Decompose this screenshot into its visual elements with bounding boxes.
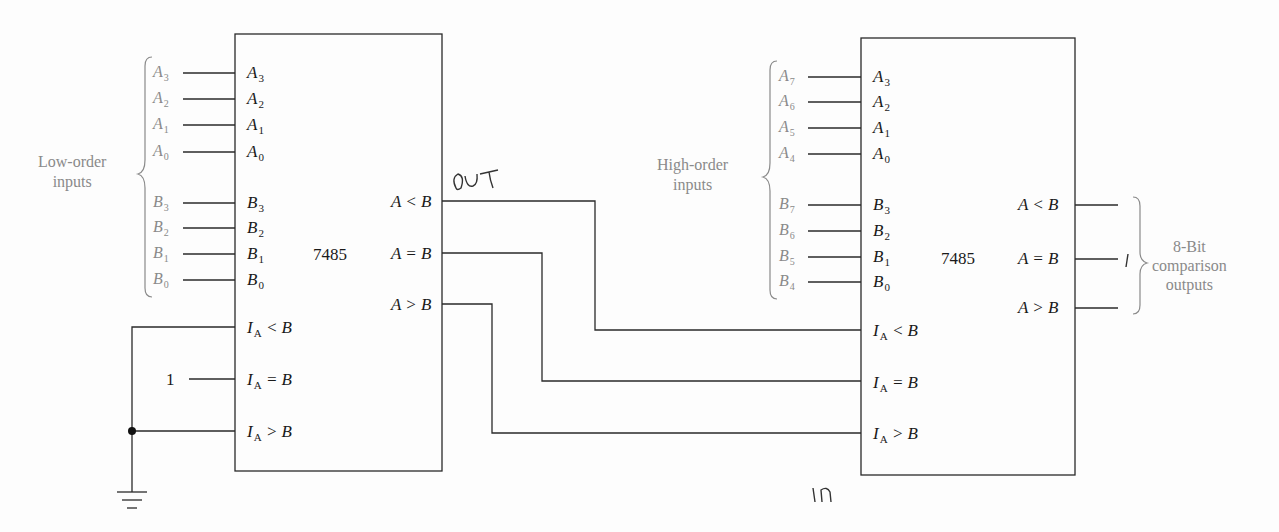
pin-label-A1: A1 <box>247 116 264 136</box>
pin-label-B3-high: B3 <box>873 196 890 216</box>
ground-icon <box>117 490 147 510</box>
pin-label-B1: B1 <box>247 245 264 265</box>
ext-label-B0: B0 <box>153 271 169 290</box>
wiring <box>0 0 1279 532</box>
low-cascade-lt: IA < B <box>247 319 292 336</box>
brace-outputs <box>1133 197 1147 314</box>
chip-low-part-number: 7485 <box>313 246 347 263</box>
high-cascade-eq: IA = B <box>873 374 918 391</box>
ext-label-A3: A3 <box>153 64 169 83</box>
comparator-diagram: Low-orderinputs A3 A2 A1 A0 B3 B2 B1 B0 … <box>0 0 1279 532</box>
ext-label-A4: A4 <box>779 145 795 164</box>
pin-label-A1-high: A1 <box>873 119 890 139</box>
ext-label-A0: A0 <box>153 143 169 162</box>
high-cascade-lt: IA < B <box>873 322 918 339</box>
low-cascade-eq: IA = B <box>247 371 292 388</box>
pin-label-A3: A3 <box>247 64 264 84</box>
output-group-label: 8-Bit comparison outputs <box>1152 237 1227 294</box>
pin-label-B3: B3 <box>247 194 264 214</box>
high-order-group-label: High-orderinputs <box>657 155 728 195</box>
ext-label-B3: B3 <box>153 194 169 213</box>
high-cascade-gt: IA > B <box>873 425 918 442</box>
low-output-lt: A < B <box>391 193 431 210</box>
ext-label-A5: A5 <box>779 119 795 138</box>
low-order-group-label: Low-orderinputs <box>38 152 106 192</box>
high-output-eq: A = B <box>1018 250 1058 267</box>
pin-label-A0-high: A0 <box>873 145 890 165</box>
pin-label-A0: A0 <box>247 143 264 163</box>
low-output-eq: A = B <box>391 245 431 262</box>
pin-label-A2-high: A2 <box>873 93 890 113</box>
ext-label-B7: B7 <box>779 196 795 215</box>
pin-label-A3-high: A3 <box>873 68 890 88</box>
ext-label-B1: B1 <box>153 245 169 264</box>
high-output-gt: A > B <box>1018 299 1058 316</box>
tie-high-value: 1 <box>166 371 175 388</box>
low-cascade-gt: IA > B <box>247 423 292 440</box>
pin-label-B2-high: B2 <box>873 222 890 242</box>
ext-label-B6: B6 <box>779 222 795 241</box>
ext-label-B2: B2 <box>153 219 169 238</box>
pin-label-B2: B2 <box>247 219 264 239</box>
ext-label-A1: A1 <box>153 116 169 135</box>
brace-high-inputs <box>763 61 777 299</box>
ext-label-A7: A7 <box>779 68 795 87</box>
pin-label-A2: A2 <box>247 90 264 110</box>
high-output-lt: A < B <box>1018 196 1058 213</box>
pin-label-B0: B0 <box>247 271 264 291</box>
handwritten-out-annotation: OUT <box>452 166 502 190</box>
pin-label-B0-high: B0 <box>873 273 890 293</box>
ext-label-A2: A2 <box>153 90 169 109</box>
pin-label-B1-high: B1 <box>873 248 890 268</box>
brace-low-inputs <box>138 57 152 297</box>
chip-high-part-number: 7485 <box>941 250 975 267</box>
ext-label-A6: A6 <box>779 93 795 112</box>
ext-label-B4: B4 <box>779 273 795 292</box>
handwritten-in-annotation: IN <box>810 486 836 506</box>
ext-label-B5: B5 <box>779 248 795 267</box>
junction-dot <box>128 427 136 435</box>
low-output-gt: A > B <box>391 296 431 313</box>
